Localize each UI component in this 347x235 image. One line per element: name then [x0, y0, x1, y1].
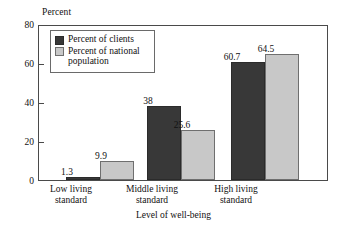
legend-label-clients: Percent of clients: [68, 34, 134, 45]
category-label-high-line2: standard: [181, 195, 291, 206]
legend-label-national: Percent of national population: [68, 46, 150, 67]
x-axis-title: Level of well-being: [0, 210, 347, 220]
legend-swatch-clients-icon: [55, 36, 64, 45]
legend: Percent of clients Percent of national p…: [50, 30, 155, 73]
value-label-national-low: 9.9: [83, 151, 119, 161]
value-label-national-middle: 25.6: [164, 120, 200, 130]
y-axis-label: Percent: [42, 7, 71, 17]
value-label-clients-middle: 38: [130, 96, 166, 106]
y-tick-label-40: 40: [4, 98, 34, 108]
legend-swatch-national-icon: [55, 47, 64, 56]
value-label-clients-high: 60.7: [214, 52, 250, 62]
bar-national-high: [265, 54, 299, 180]
legend-label-national-line1: Percent of national: [68, 46, 140, 56]
bar-chart: Percent 80 60 40 20 0 1.3 9.9 38 25.6 60…: [0, 0, 347, 235]
y-tick-label-80: 80: [4, 20, 34, 30]
category-label-high-line1: High living: [181, 184, 291, 195]
bar-national-middle: [181, 130, 215, 180]
y-tick-label-20: 20: [4, 137, 34, 147]
bar-clients-high: [231, 62, 265, 180]
bar-clients-middle: [147, 106, 181, 180]
legend-item-national: Percent of national population: [55, 46, 150, 67]
value-label-clients-low: 1.3: [49, 167, 85, 177]
legend-label-national-line2: population: [68, 56, 109, 66]
bar-clients-low: [66, 177, 100, 180]
y-tick-label-60: 60: [4, 59, 34, 69]
category-label-high: High living standard: [181, 184, 291, 206]
value-label-national-high: 64.5: [248, 44, 284, 54]
bar-national-low: [100, 161, 134, 180]
legend-item-clients: Percent of clients: [55, 34, 150, 45]
